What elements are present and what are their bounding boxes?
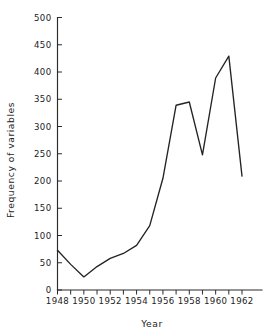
y-axis-group: 050100150200250300350400450500 xyxy=(34,13,62,296)
y-axis-tick-label: 0 xyxy=(46,285,52,295)
y-axis-tick-label: 400 xyxy=(34,67,51,77)
y-axis-tick-label: 100 xyxy=(34,231,51,241)
x-axis-tick-labels: 19481950195219541956195819601962 xyxy=(46,296,254,306)
y-axis-tick-label: 200 xyxy=(34,176,51,186)
x-axis-group: 19481950195219541956195819601962 xyxy=(46,290,262,306)
x-axis-ticks xyxy=(58,290,243,295)
x-axis-tick-label: 1956 xyxy=(151,296,174,306)
x-axis-tick-label: 1954 xyxy=(125,296,148,306)
y-axis-tick-label: 250 xyxy=(34,149,51,159)
y-axis-tick-label: 350 xyxy=(34,94,51,104)
y-axis-ticks xyxy=(58,18,63,291)
x-axis-title: Year xyxy=(140,318,163,329)
chart-canvas: 050100150200250300350400450500 194819501… xyxy=(0,0,277,334)
line-chart-figure: 050100150200250300350400450500 194819501… xyxy=(0,0,277,334)
y-axis-tick-label: 500 xyxy=(34,13,51,23)
y-axis-tick-label: 300 xyxy=(34,122,51,132)
data-series-group xyxy=(58,56,243,277)
x-axis-tick-label: 1948 xyxy=(46,296,69,306)
y-axis-title: Frequency of variables xyxy=(5,102,16,218)
x-axis-tick-label: 1952 xyxy=(99,296,122,306)
x-axis-tick-label: 1958 xyxy=(178,296,201,306)
x-axis-tick-label: 1962 xyxy=(230,296,253,306)
data-series-frequency-of-variables xyxy=(58,56,243,277)
y-axis-tick-label: 150 xyxy=(34,203,51,213)
x-axis-tick-label: 1960 xyxy=(204,296,227,306)
y-axis-tick-label: 450 xyxy=(34,40,51,50)
y-axis-tick-labels: 050100150200250300350400450500 xyxy=(34,13,51,296)
x-axis-tick-label: 1950 xyxy=(72,296,95,306)
y-axis-tick-label: 50 xyxy=(40,258,52,268)
